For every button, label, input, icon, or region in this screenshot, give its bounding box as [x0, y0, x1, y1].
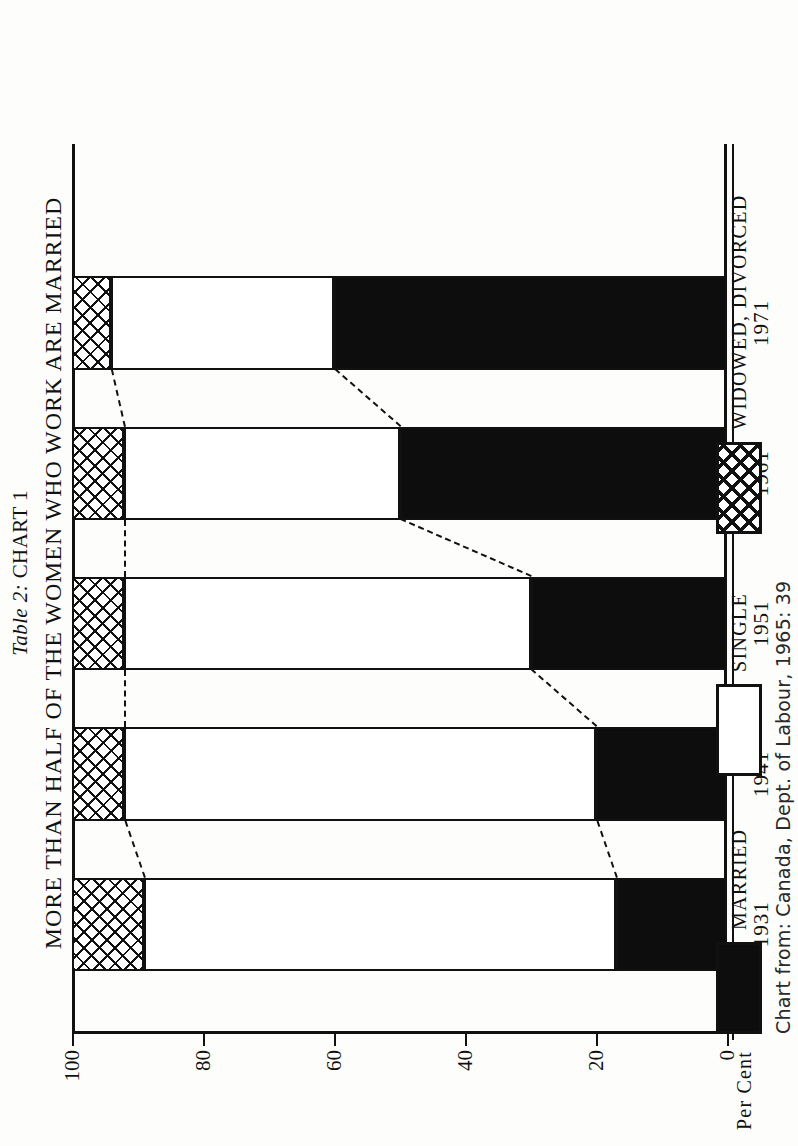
- legend-label-married: MARRIED: [728, 829, 751, 930]
- chart-label: CHART 1: [8, 490, 32, 578]
- bar-segment-widowed[interactable]: [72, 577, 124, 670]
- bar-segment-widowed[interactable]: [72, 727, 124, 820]
- y-tick-mark: [727, 1034, 729, 1046]
- bar-segment-single[interactable]: [144, 878, 616, 971]
- legend: MARRIEDSINGLEWIDOWED, DIVORCED: [710, 20, 762, 1034]
- bar-segment-single[interactable]: [111, 276, 334, 369]
- bar-group[interactable]: 1961: [72, 427, 727, 520]
- bar-segment-married[interactable]: [400, 427, 728, 520]
- y-axis-title: Per Cent: [733, 1051, 756, 1130]
- y-tick-mark: [203, 1034, 205, 1046]
- title-block: Table 2: CHART 1 MORE THAN HALF OF THE W…: [8, 0, 67, 1146]
- bar-segment-married[interactable]: [334, 276, 727, 369]
- legend-swatch-widowed: [716, 442, 762, 534]
- connector-line-married: [334, 368, 401, 427]
- plot-area: 020406080100 19311941195119611971 Per Ce…: [72, 144, 727, 1034]
- bar-group[interactable]: 1951: [72, 577, 727, 670]
- bar-group[interactable]: 1931: [72, 878, 727, 971]
- bar-segment-widowed[interactable]: [72, 276, 111, 369]
- page-title: MORE THAN HALF OF THE WOMEN WHO WORK ARE…: [40, 0, 67, 1146]
- connector-line-married: [400, 518, 532, 577]
- y-tick-label: 100: [60, 1050, 85, 1082]
- legend-swatch-single: [716, 684, 762, 776]
- bar-segment-single[interactable]: [124, 577, 530, 670]
- legend-item[interactable]: WIDOWED, DIVORCED: [716, 195, 762, 534]
- connector-line-single: [124, 820, 146, 878]
- connector-line-single: [111, 369, 126, 427]
- y-tick-label: 20: [584, 1050, 609, 1071]
- bar-segment-single[interactable]: [124, 427, 399, 520]
- legend-swatch-married: [716, 942, 762, 1034]
- legend-item[interactable]: MARRIED: [716, 829, 762, 1034]
- source-note: Chart from: Canada, Dept. of Labour, 196…: [772, 581, 794, 1034]
- bar-segment-married[interactable]: [596, 727, 727, 820]
- bar-segment-widowed[interactable]: [72, 878, 144, 971]
- legend-item[interactable]: SINGLE: [716, 593, 762, 776]
- chart-figure: Table 2: CHART 1 MORE THAN HALF OF THE W…: [0, 0, 798, 1146]
- legend-label-single: SINGLE: [728, 593, 751, 672]
- y-tick-mark: [72, 1034, 74, 1046]
- connector-line-single: [124, 520, 126, 577]
- table-label: Table 2:: [8, 584, 32, 656]
- connector-line-married: [531, 669, 598, 728]
- legend-label-widowed: WIDOWED, DIVORCED: [728, 195, 751, 430]
- bar-segment-single[interactable]: [124, 727, 596, 820]
- bar-group[interactable]: 1971: [72, 276, 727, 369]
- bar-group[interactable]: 1941: [72, 727, 727, 820]
- y-tick-label: 80: [191, 1050, 216, 1071]
- y-tick-label: 60: [322, 1050, 347, 1071]
- bar-segment-married[interactable]: [531, 577, 728, 670]
- figure-subtitle: Table 2: CHART 1: [8, 0, 33, 1146]
- y-tick-mark: [334, 1034, 336, 1046]
- connector-line-single: [124, 670, 126, 727]
- y-tick-mark: [465, 1034, 467, 1046]
- bar-segment-widowed[interactable]: [72, 427, 124, 520]
- y-tick-label: 40: [453, 1050, 478, 1071]
- rotated-figure-stage: Table 2: CHART 1 MORE THAN HALF OF THE W…: [0, 0, 798, 1146]
- bar-series-container: 19311941195119611971: [72, 144, 727, 1034]
- y-tick-mark: [596, 1034, 598, 1046]
- connector-line-married: [596, 820, 618, 878]
